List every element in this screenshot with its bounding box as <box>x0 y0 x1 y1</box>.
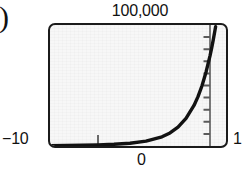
x-axis-zero-label: 0 <box>137 152 146 168</box>
calculator-screen-frame <box>48 23 228 148</box>
x-axis-max-label: 1 <box>233 131 242 147</box>
plot-canvas <box>50 25 226 146</box>
figure-container: ) 100,000 −10 0 1 <box>0 0 250 173</box>
exponential-curve <box>50 27 216 146</box>
y-axis-group <box>204 25 211 146</box>
y-axis-max-label: 100,000 <box>0 3 250 19</box>
x-axis-min-label: −10 <box>2 131 29 147</box>
